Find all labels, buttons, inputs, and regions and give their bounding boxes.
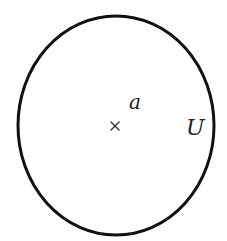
point-label: a	[129, 90, 141, 114]
set-label: U	[186, 115, 206, 140]
neighborhood-diagram: a U	[0, 0, 227, 241]
